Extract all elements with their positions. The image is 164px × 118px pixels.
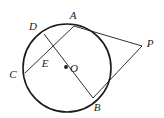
tangent-a-to-p xyxy=(74,26,142,46)
geometry-figure: A B C D E O P xyxy=(0,0,164,118)
point-label-b: B xyxy=(94,102,101,113)
point-label-e: E xyxy=(42,58,49,69)
point-label-d: D xyxy=(29,21,37,32)
point-label-a: A xyxy=(70,10,77,21)
center-point-dot xyxy=(64,65,68,69)
geometry-canvas xyxy=(0,0,164,118)
point-label-o: O xyxy=(70,63,78,74)
point-label-p: P xyxy=(147,38,154,49)
tangent-b-to-p xyxy=(93,46,142,98)
point-label-c: C xyxy=(9,69,16,80)
diameter-d-to-b xyxy=(44,34,93,98)
